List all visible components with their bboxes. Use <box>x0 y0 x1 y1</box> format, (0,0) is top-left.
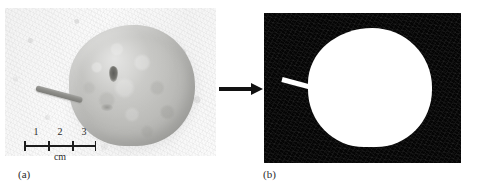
scale-tick-1 <box>48 141 50 151</box>
scale-tick-label-2: 2 <box>53 126 67 137</box>
scale-tick-0 <box>24 141 26 151</box>
figure-root: 1 2 3 cm (a) (b) <box>0 0 483 190</box>
panel-a-caption: (a) <box>18 168 30 181</box>
panel-b-caption: (b) <box>263 168 276 181</box>
scale-tick-label-1: 1 <box>29 126 43 137</box>
scale-bar-axis-line <box>24 145 96 147</box>
mask-fruit-region <box>308 28 432 147</box>
arrow-head <box>251 83 263 95</box>
scale-bar-rule <box>24 141 96 151</box>
scale-tick-label-3: 3 <box>77 126 91 137</box>
scale-tick-3 <box>95 141 97 151</box>
scale-bar: 1 2 3 cm <box>24 126 96 160</box>
arrow-shaft <box>219 87 253 91</box>
scale-bar-unit-label: cm <box>24 151 96 162</box>
panel-b-binary-mask <box>264 13 461 163</box>
scale-tick-2 <box>72 141 74 151</box>
scale-bar-numbers: 1 2 3 <box>24 126 96 139</box>
fruit-secondary-blemish <box>101 104 113 111</box>
transformation-arrow-icon <box>219 83 263 95</box>
